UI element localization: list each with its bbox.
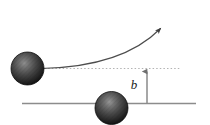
target-particle-sphere	[95, 92, 128, 125]
trajectory-curve	[41, 29, 161, 69]
impact-parameter-label: b	[131, 77, 138, 92]
diagram-canvas: b	[0, 0, 210, 125]
scattering-diagram-figure: b	[0, 0, 210, 125]
incoming-particle-sphere	[11, 52, 44, 85]
